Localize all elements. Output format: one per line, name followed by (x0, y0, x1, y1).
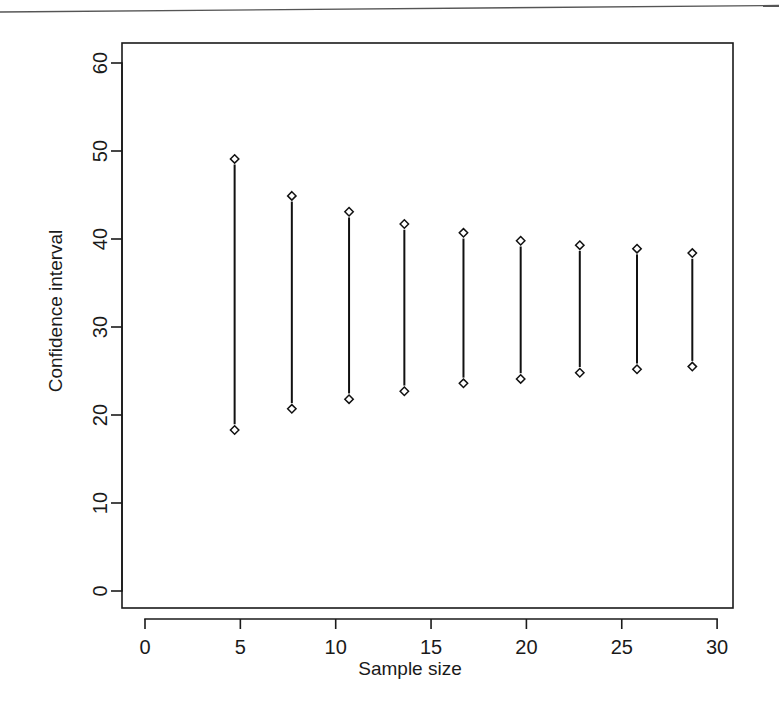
y-axis-tick-label: 0 (89, 585, 111, 596)
ci-interval (288, 192, 296, 413)
ci-lower-marker (345, 395, 353, 403)
y-axis-tick-label: 40 (89, 228, 111, 250)
y-axis-tick-label: 20 (89, 404, 111, 426)
ci-upper-marker (288, 192, 296, 200)
x-axis-tick-label: 5 (235, 636, 246, 658)
x-axis-tick-label: 10 (325, 636, 347, 658)
ci-lower-marker (288, 405, 296, 413)
ci-lower-marker (576, 369, 584, 377)
ci-interval (576, 241, 584, 377)
y-axis-tick-label: 10 (89, 492, 111, 514)
ci-upper-marker (633, 244, 641, 252)
x-axis-tick-label: 30 (706, 636, 728, 658)
ci-interval (516, 237, 524, 384)
ci-lower-marker (688, 362, 696, 370)
y-axis-tick-label: 50 (89, 140, 111, 162)
ci-upper-marker (688, 249, 696, 257)
x-axis-tick-label: 15 (420, 636, 442, 658)
x-axis-tick-label: 20 (515, 636, 537, 658)
ci-upper-marker (576, 241, 584, 249)
ci-interval (400, 220, 408, 396)
figure-page: 0102030405060051015202530 Confidence int… (0, 0, 779, 725)
ci-upper-marker (459, 229, 467, 237)
y-axis-title: Confidence interval (45, 191, 67, 431)
plot-frame (122, 43, 733, 608)
ci-interval (688, 249, 696, 371)
ci-upper-marker (345, 208, 353, 216)
ci-interval (345, 208, 353, 404)
ci-upper-marker (400, 220, 408, 228)
ci-lower-marker (516, 375, 524, 383)
y-axis-tick-label: 60 (89, 52, 111, 74)
x-axis-title: Sample size (290, 658, 530, 680)
x-axis-tick-label: 0 (139, 636, 150, 658)
confidence-interval-plot: 0102030405060051015202530 (0, 0, 779, 725)
ci-interval (230, 155, 238, 434)
ci-lower-marker (230, 426, 238, 434)
ci-lower-marker (459, 379, 467, 387)
ci-upper-marker (516, 237, 524, 245)
ci-upper-marker (230, 155, 238, 163)
y-axis-tick-label: 30 (89, 316, 111, 338)
ci-lower-marker (400, 387, 408, 395)
ci-lower-marker (633, 365, 641, 373)
ci-interval (633, 244, 641, 373)
x-axis-tick-label: 25 (611, 636, 633, 658)
ci-interval (459, 229, 467, 388)
